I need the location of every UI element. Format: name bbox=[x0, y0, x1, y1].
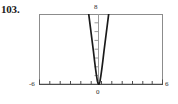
x-max-tick-label: 6 bbox=[165, 80, 169, 88]
figure-container: 103. bbox=[0, 0, 178, 104]
y-max-tick-label: 8 bbox=[94, 3, 98, 11]
plot-svg bbox=[39, 14, 163, 85]
problem-number-label: 103. bbox=[1, 3, 19, 15]
origin-tick-label: 0 bbox=[96, 88, 100, 96]
x-min-tick-label: -6 bbox=[29, 80, 35, 88]
plot-area: 8 -6 6 0 bbox=[39, 14, 163, 85]
